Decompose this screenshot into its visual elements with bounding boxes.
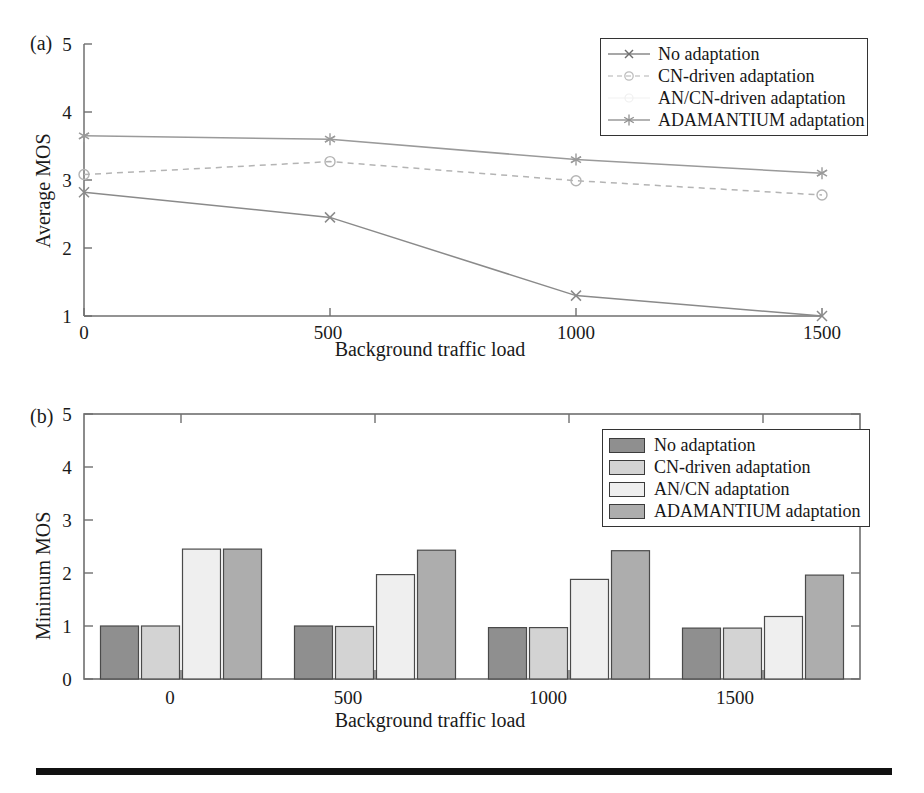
bar-0-3 bbox=[224, 549, 262, 679]
legend-item-cn-driven: CN-driven adaptation bbox=[607, 65, 859, 87]
bar-1-1 bbox=[336, 627, 374, 680]
swatch-cn-driven bbox=[609, 460, 645, 475]
swatch-an-cn bbox=[609, 482, 645, 497]
legend-item-an-cn: AN/CN adaptation bbox=[609, 478, 861, 500]
swatch-adamantium bbox=[609, 504, 645, 519]
bar-2-1 bbox=[530, 628, 568, 679]
line-sample-faint-icon bbox=[607, 89, 651, 107]
bar-1-3 bbox=[418, 550, 456, 679]
legend-item-cn-driven: CN-driven adaptation bbox=[609, 456, 861, 478]
bar-3-3 bbox=[806, 575, 844, 679]
bar-3-2 bbox=[765, 617, 803, 680]
panel-b-legend: No adaptation CN-driven adaptation AN/CN… bbox=[602, 429, 870, 527]
series-1 bbox=[79, 157, 827, 200]
panel-a-line-chart: (a) Average MOS Background traffic load … bbox=[0, 0, 924, 385]
legend-item-adamantium: ADAMANTIUM adaptation bbox=[607, 109, 859, 131]
legend-label: ADAMANTIUM adaptation bbox=[658, 111, 864, 129]
bar-1-0 bbox=[295, 626, 333, 679]
legend-label: CN-driven adaptation bbox=[658, 67, 814, 85]
bar-3-0 bbox=[683, 628, 721, 679]
bottom-horizontal-rule bbox=[36, 768, 892, 775]
legend-label: No adaptation bbox=[654, 436, 755, 454]
legend-item-no-adaptation: No adaptation bbox=[607, 43, 859, 65]
bar-1-2 bbox=[377, 575, 415, 679]
bar-0-0 bbox=[101, 626, 139, 679]
legend-label: AN/CN-driven adaptation bbox=[658, 89, 845, 107]
legend-label: CN-driven adaptation bbox=[654, 458, 810, 476]
legend-item-no-adaptation: No adaptation bbox=[609, 434, 861, 456]
line-sample-star-icon bbox=[607, 111, 651, 129]
legend-label: No adaptation bbox=[658, 45, 759, 63]
series-3 bbox=[79, 130, 827, 179]
bar-0-1 bbox=[142, 626, 180, 679]
bar-2-2 bbox=[571, 579, 609, 679]
legend-label: ADAMANTIUM adaptation bbox=[654, 502, 860, 520]
line-sample-circle-icon bbox=[607, 67, 651, 85]
legend-label: AN/CN adaptation bbox=[654, 480, 789, 498]
bar-0-2 bbox=[183, 549, 221, 679]
swatch-no-adaptation bbox=[609, 438, 645, 453]
legend-item-an-cn-driven: AN/CN-driven adaptation bbox=[607, 87, 859, 109]
figure-container: (a) Average MOS Background traffic load … bbox=[0, 0, 924, 793]
legend-item-adamantium: ADAMANTIUM adaptation bbox=[609, 500, 861, 522]
panel-a-legend: No adaptation CN-driven adaptation AN/CN… bbox=[600, 38, 868, 136]
bar-2-0 bbox=[489, 628, 527, 679]
bar-2-3 bbox=[612, 551, 650, 679]
bar-3-1 bbox=[724, 628, 762, 679]
series-0 bbox=[79, 187, 827, 321]
line-sample-x-icon bbox=[607, 45, 651, 63]
panel-b-bar-chart: (b) Minimum MOS Background traffic load … bbox=[0, 385, 924, 725]
